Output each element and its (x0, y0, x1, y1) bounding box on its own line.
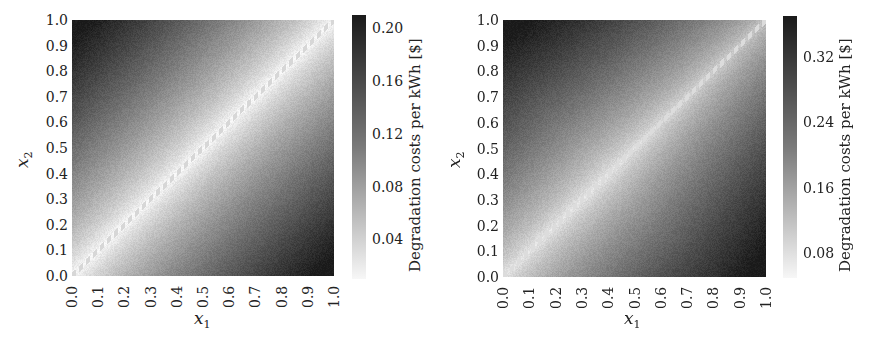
colorbar-tick-label: 0.32 (803, 50, 834, 64)
right-heatmap (503, 20, 766, 277)
x-tick-label: 0.4 (601, 287, 615, 309)
y-tick-label: 0.5 (463, 142, 499, 156)
right-y-axis-label: x2 (444, 151, 467, 168)
y-tick-label: 0.4 (463, 167, 499, 181)
x-tick-label: 0.5 (628, 287, 642, 309)
y-tick-label: 0.2 (463, 219, 499, 233)
y-tick-label: 1.0 (463, 13, 499, 27)
right-colorbar-label: Degradation costs per kWh [$] (836, 38, 854, 272)
x-tick-label: 0.6 (654, 287, 668, 309)
x-tick-label: 0.8 (706, 287, 720, 309)
y-tick-label: 0.7 (463, 90, 499, 104)
y-tick-label: 0.8 (463, 64, 499, 78)
y-tick-label: 0.0 (463, 270, 499, 284)
colorbar-tick-label: 0.24 (803, 115, 834, 129)
right-colorbar (783, 16, 797, 278)
right-chart: 0.00.10.20.30.40.50.60.70.80.91.0 0.00.1… (0, 0, 883, 340)
y-tick-label: 0.3 (463, 193, 499, 207)
x-tick-label: 0.9 (733, 287, 747, 309)
x-tick-label: 0.2 (549, 287, 563, 309)
colorbar-tick-label: 0.16 (803, 181, 834, 195)
x-tick-label: 1.0 (759, 287, 773, 309)
right-x-axis-label: x1 (624, 308, 641, 331)
colorbar-tick-label: 0.08 (803, 246, 834, 260)
x-tick-label: 0.3 (575, 287, 589, 309)
y-tick-label: 0.9 (463, 39, 499, 53)
x-tick-label: 0.1 (522, 287, 536, 309)
x-tick-label: 0.0 (496, 287, 510, 309)
y-tick-label: 0.1 (463, 244, 499, 258)
x-tick-label: 0.7 (680, 287, 694, 309)
y-tick-label: 0.6 (463, 116, 499, 130)
